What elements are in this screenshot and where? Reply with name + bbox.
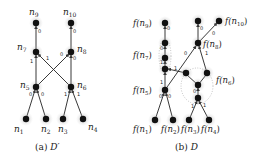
node-label-n7: n7: [17, 42, 27, 53]
edge-n5-n8: [36, 54, 69, 87]
caption-a: (a) D′: [35, 142, 60, 152]
node-n6: [64, 80, 78, 94]
node-label-f-n10: f(n10): [224, 16, 247, 27]
node-label-n4: n4: [88, 122, 98, 133]
node-label-n9: n9: [29, 7, 39, 18]
node-label-n1: n1: [14, 124, 24, 135]
node: [158, 36, 172, 50]
node: [191, 91, 205, 105]
node: [158, 16, 172, 30]
node-label-n2: n2: [41, 124, 51, 135]
edge-label: 1: [205, 50, 208, 56]
node-n9: [29, 16, 43, 30]
panel-a-edges: [26, 26, 83, 119]
edge-n6-n7: [38, 54, 71, 87]
node-label-f-n4: f(n4): [200, 124, 220, 135]
node: [191, 78, 205, 92]
edge-label: 0: [41, 91, 44, 97]
figure-canvas: 0 0 1 1 0 0 0 0 1 1 n9 n10 n: [0, 0, 263, 162]
node-n7: [29, 45, 43, 59]
caption-b: (b) D: [175, 142, 198, 152]
edge-label: 1: [30, 58, 33, 64]
node-label-f-n1: f(n1): [132, 124, 152, 135]
node: [191, 14, 205, 28]
edge-label: 1: [46, 55, 49, 61]
edge-label: 1: [203, 102, 206, 108]
edge-label: 0: [60, 51, 63, 57]
panel-a: 0 0 1 1 0 0 0 0 1 1 n9 n10 n: [14, 7, 98, 152]
edge-label: 1: [191, 103, 194, 109]
edge-label: 0: [212, 30, 215, 36]
node: [158, 62, 172, 76]
node-n8: [64, 45, 78, 59]
node-label-n8: n8: [77, 44, 87, 55]
node-n5: [29, 80, 43, 94]
panel-b: 0 0 0 0 1 0 1 1 1 0 0 0 1 1: [132, 14, 247, 152]
node-label-f-n6: f(n6): [215, 75, 235, 86]
node: [200, 66, 214, 80]
node: [158, 83, 172, 97]
node: [179, 66, 193, 80]
node-label-f-n2: f(n2): [160, 124, 180, 135]
node-n1: [19, 112, 33, 126]
node-label-f-n9: f(n9): [132, 18, 152, 29]
edge-label: 1: [174, 65, 177, 71]
node-label-n6: n6: [77, 80, 87, 91]
node-label-n10: n10: [63, 7, 77, 18]
node-label-f-n7: f(n7): [132, 50, 152, 61]
node-label-f-n3: f(n3): [180, 124, 200, 135]
edge-label: 0: [184, 50, 187, 56]
edge-label: 1: [77, 91, 80, 97]
node-n10: [64, 16, 78, 30]
node-label-f-n8: f(n8): [202, 39, 222, 50]
node: [212, 14, 226, 28]
node-label-n5: n5: [20, 80, 30, 91]
node-label-n3: n3: [58, 124, 68, 135]
node-label-f-n5: f(n5): [132, 85, 152, 96]
